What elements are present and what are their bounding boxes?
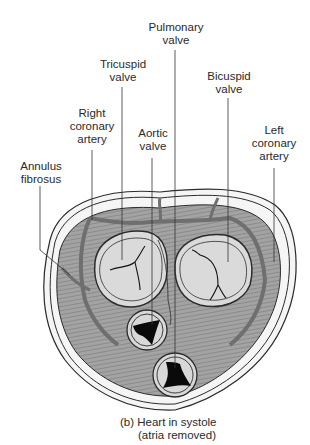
label-tricuspid-valve: Tricuspid valve — [92, 58, 154, 84]
label-left-coronary-artery: Left coronary artery — [244, 124, 304, 163]
label-aortic-valve: Aortic valve — [130, 127, 176, 153]
label-bicuspid-valve: Bicuspid valve — [198, 70, 260, 96]
label-annulus-fibrosus: Annulus fibrosus — [12, 160, 70, 186]
caption-line2: (atria removed) — [138, 429, 216, 442]
label-right-coronary-artery: Right coronary artery — [62, 107, 122, 146]
label-pulmonary-valve: Pulmonary valve — [144, 21, 208, 47]
caption-line1: (b) Heart in systole — [120, 416, 217, 429]
heart-diagram — [0, 0, 310, 445]
tricuspid-valve-shape — [95, 231, 168, 307]
